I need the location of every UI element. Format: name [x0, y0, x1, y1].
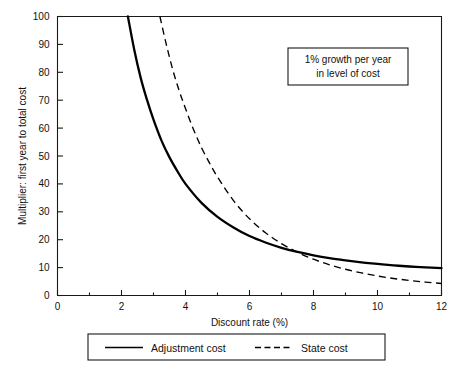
y-tick-label: 20 — [38, 234, 50, 245]
x-tick-label: 4 — [183, 301, 189, 312]
x-axis-ticks — [58, 290, 442, 296]
x-axis-tick-labels: 024681012 — [55, 301, 448, 312]
y-tick-label: 30 — [38, 206, 50, 217]
annotation-growth-note: 1% growth per year in level of cost — [288, 48, 408, 85]
legend-label-state-cost: State cost — [301, 342, 348, 354]
annotation-line-1: 1% growth per year — [305, 54, 392, 65]
y-axis-tick-labels: 0102030405060708090100 — [33, 11, 50, 301]
y-tick-label: 100 — [33, 11, 50, 22]
x-tick-label: 0 — [55, 301, 61, 312]
chart-canvas: 024681012 0102030405060708090100 Discoun… — [0, 0, 466, 371]
x-tick-label: 10 — [372, 301, 384, 312]
y-axis-title: Multiplier: first year to total cost — [17, 87, 28, 225]
y-tick-label: 80 — [38, 67, 50, 78]
legend: Adjustment cost State cost — [88, 334, 385, 360]
y-tick-label: 50 — [38, 151, 50, 162]
y-tick-label: 90 — [38, 39, 50, 50]
x-tick-label: 6 — [247, 301, 253, 312]
y-tick-label: 10 — [38, 262, 50, 273]
y-axis-ticks — [58, 17, 64, 296]
annotation-line-2: in level of cost — [316, 68, 380, 79]
chart-figure: 024681012 0102030405060708090100 Discoun… — [0, 0, 466, 371]
y-tick-label: 70 — [38, 95, 50, 106]
x-tick-label: 2 — [119, 301, 125, 312]
y-tick-label: 0 — [44, 290, 50, 301]
legend-label-adjustment-cost: Adjustment cost — [151, 342, 226, 354]
x-axis-title: Discount rate (%) — [211, 317, 288, 328]
x-tick-label: 12 — [436, 301, 448, 312]
y-tick-label: 40 — [38, 178, 50, 189]
x-tick-label: 8 — [311, 301, 317, 312]
y-tick-label: 60 — [38, 123, 50, 134]
